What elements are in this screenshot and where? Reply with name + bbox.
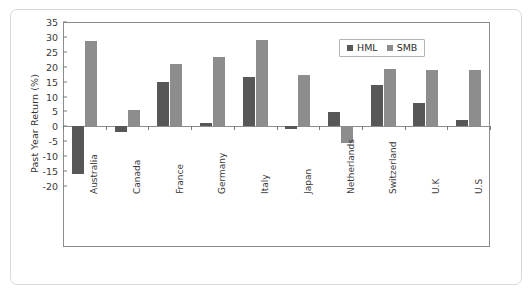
bar-smb-italy bbox=[256, 40, 268, 126]
chart-legend: HML SMB bbox=[339, 39, 425, 57]
y-tick-label: -5 bbox=[49, 136, 63, 147]
y-tick-mark bbox=[63, 81, 67, 82]
bar-hml-italy bbox=[243, 77, 255, 126]
bar-smb-france bbox=[170, 64, 182, 126]
bar-hml-japan bbox=[285, 126, 297, 129]
y-tick-mark bbox=[63, 36, 67, 37]
y-tick-label: 25 bbox=[46, 46, 63, 57]
bar-smb-canada bbox=[128, 110, 140, 127]
bar-smb-japan bbox=[298, 75, 310, 127]
bar-smb-switzerland bbox=[384, 69, 396, 127]
x-category-label: Netherlands bbox=[346, 139, 356, 194]
bar-smb-australia bbox=[85, 41, 97, 127]
legend-entry-hml: HML bbox=[347, 42, 378, 53]
x-tick-mark bbox=[277, 126, 278, 130]
y-tick-mark bbox=[63, 66, 67, 67]
bar-smb-uk bbox=[426, 70, 438, 127]
x-tick-mark bbox=[63, 126, 64, 130]
x-tick-mark bbox=[405, 126, 406, 130]
legend-entry-smb: SMB bbox=[387, 42, 418, 53]
legend-swatch-hml-icon bbox=[347, 45, 353, 51]
bar-chart: Past Year Return (%) 35302520151050-5-10… bbox=[11, 10, 523, 286]
x-tick-mark bbox=[447, 126, 448, 130]
x-tick-mark bbox=[148, 126, 149, 130]
x-category-label: France bbox=[175, 164, 185, 194]
y-tick-label: -20 bbox=[42, 181, 63, 192]
y-tick-label: 30 bbox=[46, 31, 63, 42]
bar-hml-canada bbox=[115, 126, 127, 132]
x-category-label: Canada bbox=[132, 160, 142, 194]
plot-area: 35302520151050-5-10-15-20 AustraliaCanad… bbox=[63, 22, 490, 186]
x-category-label: Japan bbox=[303, 169, 313, 194]
x-category-label: Switzerland bbox=[388, 142, 398, 195]
x-tick-mark bbox=[319, 126, 320, 130]
x-category-label: Italy bbox=[260, 175, 270, 195]
y-tick-mark bbox=[63, 141, 67, 142]
y-tick-label: 15 bbox=[46, 76, 63, 87]
y-tick-mark bbox=[63, 96, 67, 97]
y-tick-label: 10 bbox=[46, 91, 63, 102]
bar-smb-us bbox=[469, 70, 481, 127]
legend-label-smb: SMB bbox=[397, 42, 418, 53]
y-tick-mark bbox=[63, 186, 67, 187]
x-tick-mark bbox=[191, 126, 192, 130]
legend-label-hml: HML bbox=[357, 42, 378, 53]
bar-hml-netherlands bbox=[328, 112, 340, 126]
y-tick-label: 35 bbox=[46, 17, 63, 28]
y-tick-mark bbox=[63, 156, 67, 157]
y-tick-mark bbox=[63, 171, 67, 172]
x-tick-mark bbox=[234, 126, 235, 130]
bar-hml-us bbox=[456, 120, 468, 127]
x-category-label: Germany bbox=[217, 153, 227, 194]
legend-swatch-smb-icon bbox=[387, 45, 393, 51]
bar-hml-germany bbox=[200, 123, 212, 126]
y-tick-label: 20 bbox=[46, 61, 63, 72]
bar-hml-australia bbox=[72, 126, 84, 174]
x-category-label: U.S bbox=[474, 179, 484, 194]
y-tick-label: -15 bbox=[42, 166, 63, 177]
y-tick-label: 5 bbox=[52, 106, 63, 117]
y-tick-label: -10 bbox=[42, 151, 63, 162]
bar-hml-uk bbox=[413, 103, 425, 127]
y-axis-label: Past Year Return (%) bbox=[29, 54, 40, 194]
bar-smb-germany bbox=[213, 57, 225, 127]
x-tick-mark bbox=[362, 126, 363, 130]
x-category-label: Australia bbox=[89, 155, 99, 195]
figure-card: Past Year Return (%) 35302520151050-5-10… bbox=[10, 9, 522, 285]
x-category-label: U.K bbox=[431, 179, 441, 194]
x-tick-mark bbox=[490, 126, 491, 130]
x-tick-mark bbox=[106, 126, 107, 130]
y-tick-mark bbox=[63, 22, 67, 23]
y-tick-mark bbox=[63, 111, 67, 112]
y-tick-label: 0 bbox=[52, 121, 63, 132]
y-tick-mark bbox=[63, 51, 67, 52]
bar-hml-switzerland bbox=[371, 85, 383, 127]
bar-hml-france bbox=[157, 82, 169, 126]
